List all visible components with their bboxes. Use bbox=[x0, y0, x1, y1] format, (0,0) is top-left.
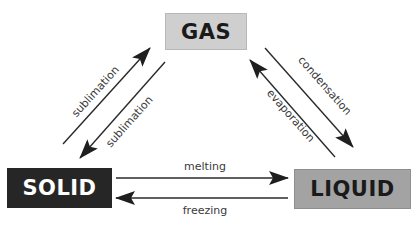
label-freezing: freezing bbox=[183, 204, 227, 217]
edge-solid-to-gas: sublimation bbox=[63, 48, 150, 144]
label-evaporation: evaporation bbox=[264, 87, 317, 145]
label-melting: melting bbox=[184, 160, 226, 173]
edge-gas-to-solid: sublimation bbox=[80, 62, 165, 158]
node-liquid-label: LIQUID bbox=[310, 177, 394, 201]
node-gas-label: GAS bbox=[181, 20, 231, 44]
label-sublimation-up: sublimation bbox=[69, 63, 122, 119]
arrow-sublimation-down bbox=[80, 62, 165, 158]
edge-liquid-to-solid: freezing bbox=[116, 198, 288, 217]
node-solid: SOLID bbox=[7, 168, 112, 208]
arrow-sublimation-up bbox=[63, 48, 150, 144]
edge-solid-to-liquid: melting bbox=[116, 160, 288, 178]
node-liquid: LIQUID bbox=[294, 169, 411, 209]
node-gas: GAS bbox=[165, 13, 247, 50]
node-solid-label: SOLID bbox=[22, 176, 96, 200]
label-condensation: condensation bbox=[295, 54, 354, 118]
